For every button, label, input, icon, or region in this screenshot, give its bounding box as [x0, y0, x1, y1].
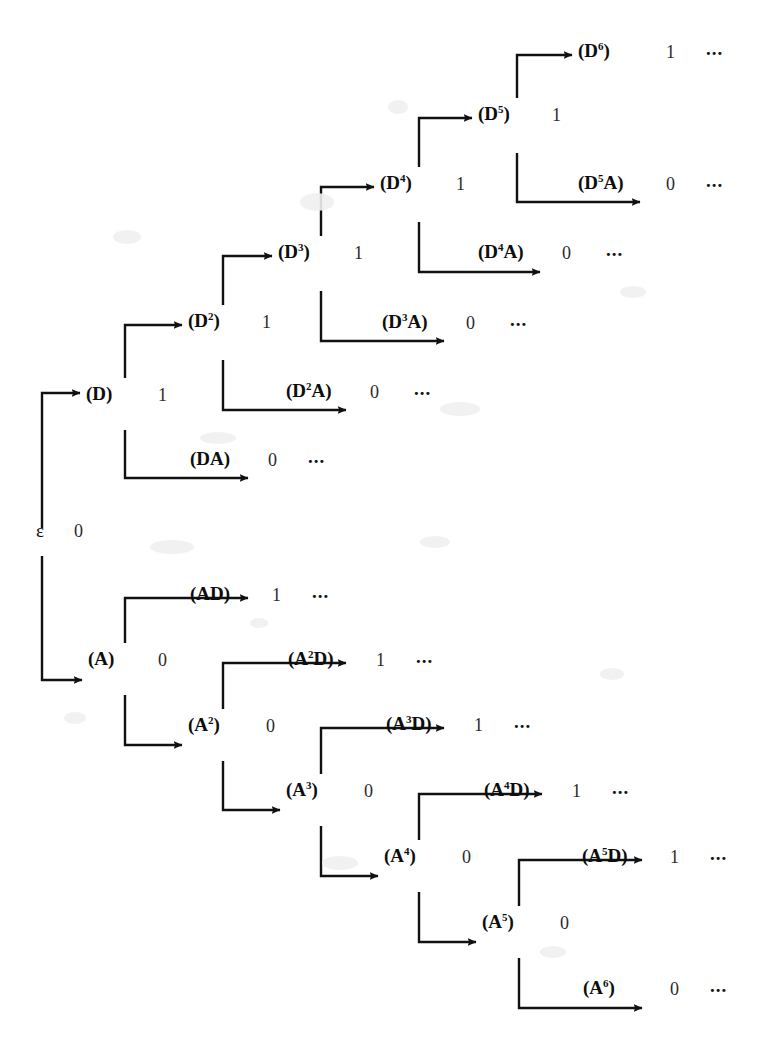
- scan-speck: [113, 230, 141, 244]
- scan-speck: [322, 856, 358, 870]
- node-value-DA: 0: [268, 450, 277, 471]
- scan-speck: [300, 193, 334, 211]
- node-label-A2: (A2): [188, 714, 220, 736]
- node-label-DA: (DA): [190, 448, 230, 470]
- node-label-A5: (A5): [482, 911, 514, 933]
- node-label-D5: (D5): [478, 103, 510, 125]
- node-ellipsis-D2A: ...: [414, 378, 431, 400]
- node-exponent-A5: 5: [502, 911, 508, 923]
- node-label-A5D: (A5D): [582, 845, 628, 867]
- scan-speck: [600, 668, 624, 680]
- node-label-D4A: (D4A): [478, 241, 524, 263]
- node-exponent-D2: 2: [208, 310, 214, 322]
- node-exponent-D2A: 2: [306, 380, 312, 392]
- edge-A5-to-A6: [519, 958, 642, 1008]
- node-value-AD: 1: [272, 585, 281, 606]
- node-exponent-A3: 3: [306, 779, 312, 791]
- node-exponent-A6: 6: [603, 977, 609, 989]
- scan-speck: [620, 286, 646, 298]
- node-value-A5D: 1: [670, 847, 679, 868]
- edge-A4-to-A5: [419, 892, 476, 942]
- node-exponent-D3: 3: [298, 241, 304, 253]
- node-value-A: 0: [158, 650, 167, 671]
- node-value-D4A: 0: [562, 243, 571, 264]
- node-ellipsis-D5A: ...: [706, 170, 723, 192]
- node-label-D2: (D2): [188, 310, 220, 332]
- node-ellipsis-A6: ...: [710, 975, 727, 997]
- node-exponent-A4: 4: [404, 845, 410, 857]
- tree-diagram: ε 0 (D)1(DA)0...(D2)1(D2A)0...(D3)1(D3A)…: [0, 0, 770, 1058]
- node-label-D3: (D3): [278, 241, 310, 263]
- node-exponent-A5D: 5: [602, 845, 608, 857]
- node-exponent-A3D: 3: [406, 713, 412, 725]
- node-value-D2: 1: [262, 312, 271, 333]
- node-ellipsis-D6: ...: [706, 38, 723, 60]
- node-ellipsis-A4D: ...: [612, 777, 629, 799]
- scan-speck: [64, 712, 86, 724]
- node-exponent-A4D: 4: [504, 779, 510, 791]
- scan-speck: [420, 536, 450, 548]
- node-label-D4: (D4): [380, 172, 412, 194]
- node-label-D2A: (D2A): [286, 380, 332, 402]
- node-value-D5: 1: [552, 105, 561, 126]
- node-exponent-D6: 6: [598, 40, 604, 52]
- edge-D3-to-D4: [321, 187, 374, 236]
- node-exponent-A2: 2: [208, 714, 214, 726]
- node-value-D2A: 0: [370, 382, 379, 403]
- node-label-A3: (A3): [286, 779, 318, 801]
- edge-D5-to-D6: [517, 55, 572, 98]
- node-value-D4: 1: [456, 174, 465, 195]
- node-value-A3D: 1: [474, 715, 483, 736]
- node-exponent-D4: 4: [400, 172, 406, 184]
- node-label-A2D: (A2D): [288, 648, 334, 670]
- scan-speck: [150, 540, 194, 554]
- node-value-D3: 1: [354, 243, 363, 264]
- node-ellipsis-AD: ...: [312, 581, 329, 603]
- scan-speck: [200, 432, 236, 444]
- edge-root-to-D: [42, 393, 80, 528]
- node-value-A4: 0: [462, 847, 471, 868]
- node-label-AD: (AD): [190, 583, 230, 605]
- node-label-D: (D): [86, 383, 112, 405]
- node-label-epsilon: ε: [36, 520, 44, 542]
- node-exponent-D4A: 4: [498, 241, 504, 253]
- scan-speck: [388, 100, 408, 114]
- edge-layer: [0, 0, 770, 1058]
- node-label-A4: (A4): [384, 845, 416, 867]
- node-value-A2D: 1: [376, 650, 385, 671]
- node-ellipsis-D3A: ...: [510, 309, 527, 331]
- node-exponent-A2D: 2: [308, 648, 314, 660]
- node-ellipsis-DA: ...: [308, 446, 325, 468]
- edge-D-to-D2: [125, 325, 182, 378]
- node-value-D5A: 0: [666, 174, 675, 195]
- scan-speck: [540, 946, 566, 958]
- node-label-D5A: (D5A): [578, 172, 624, 194]
- node-value-A4D: 1: [572, 781, 581, 802]
- node-value-A3: 0: [364, 781, 373, 802]
- node-ellipsis-A3D: ...: [514, 711, 531, 733]
- node-label-A3D: (A3D): [386, 713, 432, 735]
- node-exponent-D5: 5: [498, 103, 504, 115]
- edge-D4-to-D5: [419, 118, 472, 167]
- node-ellipsis-D4A: ...: [606, 239, 623, 261]
- node-label-A: (A): [88, 648, 114, 670]
- node-value-D6: 1: [666, 42, 675, 63]
- node-ellipsis-A5D: ...: [710, 843, 727, 865]
- node-value-A6: 0: [670, 979, 679, 1000]
- node-value-D3A: 0: [466, 313, 475, 334]
- node-ellipsis-A2D: ...: [416, 646, 433, 668]
- node-label-D6: (D6): [578, 40, 610, 62]
- scan-speck: [250, 618, 268, 628]
- edge-D2-to-D3: [223, 256, 272, 305]
- edge-root-to-A: [42, 556, 82, 680]
- node-exponent-D3A: 3: [402, 311, 408, 323]
- node-value-A5: 0: [560, 913, 569, 934]
- node-label-A4D: (A4D): [484, 779, 530, 801]
- scan-speck: [440, 402, 480, 416]
- edge-A-to-A2: [125, 695, 182, 745]
- node-label-D3A: (D3A): [382, 311, 428, 333]
- edge-A2-to-A3: [223, 761, 280, 810]
- node-value-D: 1: [158, 385, 167, 406]
- node-label-A6: (A6): [583, 977, 615, 999]
- node-exponent-D5A: 5: [598, 172, 604, 184]
